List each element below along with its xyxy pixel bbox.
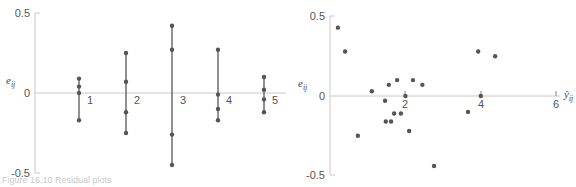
right-y-label: eij — [298, 77, 308, 92]
right-chart-residuals-vs-fitted: 0.5 0 -0.5 2 4 6 eij ŷij — [298, 10, 574, 181]
residual-point — [403, 94, 407, 98]
residual-point — [407, 129, 411, 133]
group-1: 1 — [77, 76, 93, 122]
residual-point — [411, 78, 415, 82]
group-label: 2 — [134, 94, 140, 106]
residual-point — [216, 107, 220, 111]
residual-point — [493, 54, 497, 58]
group-5: 5 — [262, 75, 278, 115]
right-ytick-neg0.5: -0.5 — [306, 169, 325, 181]
residual-point — [370, 89, 374, 93]
residual-point — [170, 132, 174, 136]
figure: 0.5 0 -0.5 eij 12345 0.5 0 -0.5 2 4 6 ei… — [0, 0, 576, 187]
residual-point — [124, 110, 128, 114]
residual-point — [466, 110, 470, 114]
residual-point — [77, 118, 81, 122]
right-ytick-0: 0 — [319, 90, 325, 102]
group-label: 4 — [226, 94, 232, 106]
residual-point — [262, 97, 266, 101]
residual-point — [479, 94, 483, 98]
group-label: 3 — [180, 94, 186, 106]
left-groups: 12345 — [77, 24, 278, 168]
residual-point — [124, 80, 128, 84]
residual-point — [216, 118, 220, 122]
residual-point — [124, 51, 128, 55]
residual-point — [343, 49, 347, 53]
residual-point — [420, 83, 424, 87]
right-xtick-2: 2 — [402, 98, 408, 110]
residual-point — [77, 84, 81, 88]
residual-point — [389, 119, 393, 123]
right-x-label: ŷij — [563, 88, 574, 103]
residual-point — [399, 111, 403, 115]
right-xtick-4: 4 — [478, 98, 484, 110]
residual-point — [387, 83, 391, 87]
left-y-label: eij — [6, 74, 16, 89]
residual-point — [262, 75, 266, 79]
residual-point — [216, 48, 220, 52]
left-ytick-0: 0 — [24, 87, 30, 99]
residual-point — [124, 131, 128, 135]
group-4: 4 — [216, 48, 232, 123]
residual-point — [216, 92, 220, 96]
group-label: 5 — [272, 94, 278, 106]
residual-point — [170, 24, 174, 28]
residual-point — [432, 164, 436, 168]
residual-point — [476, 49, 480, 53]
residual-point — [262, 88, 266, 92]
figure-caption: Figure 16.10 Residual plots — [2, 175, 112, 185]
residual-point — [356, 134, 360, 138]
left-chart-residuals-by-group: 0.5 0 -0.5 eij 12345 — [6, 7, 286, 179]
right-points — [336, 25, 498, 168]
residual-point — [77, 91, 81, 95]
residual-point — [336, 25, 340, 29]
residual-point — [384, 119, 388, 123]
residual-point — [170, 163, 174, 167]
right-xtick-6: 6 — [553, 98, 559, 110]
right-ytick-0.5: 0.5 — [310, 10, 325, 22]
residual-point — [395, 78, 399, 82]
residual-point — [262, 110, 266, 114]
residual-point — [383, 99, 387, 103]
group-3: 3 — [170, 24, 186, 168]
residual-point — [392, 111, 396, 115]
residual-point — [170, 48, 174, 52]
residual-point — [77, 76, 81, 80]
group-label: 1 — [87, 94, 93, 106]
residual-plots: 0.5 0 -0.5 eij 12345 0.5 0 -0.5 2 4 6 ei… — [0, 0, 576, 187]
left-ytick-0.5: 0.5 — [15, 7, 30, 19]
